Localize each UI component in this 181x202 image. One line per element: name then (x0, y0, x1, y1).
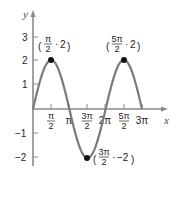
sine-chart: y x 3 2 1 −1 −2 π 2 π 3π 2 2π 5π 2 3 (0, 0, 181, 202)
max-point-1 (48, 57, 54, 63)
svg-text:π: π (45, 34, 51, 44)
annotation-3pi-over-2-minus-2: ( 3π 2 · −2 ) (93, 147, 134, 167)
svg-text:3π: 3π (81, 111, 92, 121)
svg-text:π: π (48, 111, 54, 121)
svg-text:): ) (137, 41, 140, 52)
x-axis-arrow-icon (161, 107, 168, 112)
svg-text:2: 2 (101, 157, 106, 167)
svg-text:2: 2 (60, 39, 66, 50)
x-tick-2pi: 2π (99, 115, 112, 126)
y-tick-3: 3 (22, 32, 28, 43)
svg-text:(: ( (93, 154, 97, 165)
svg-text:2: 2 (84, 121, 89, 131)
svg-text:3π: 3π (98, 147, 109, 157)
svg-text:2: 2 (114, 44, 119, 54)
y-axis-label: y (22, 8, 28, 20)
svg-text:): ) (131, 154, 134, 165)
y-tick-2: 2 (22, 55, 28, 66)
svg-text:2: 2 (121, 121, 126, 131)
y-tick-1: 1 (22, 79, 28, 90)
y-axis-arrow-icon (31, 10, 36, 17)
x-tick-3pi-over-2: 3π 2 (81, 111, 92, 131)
svg-text:2: 2 (48, 121, 53, 131)
x-axis-label: x (163, 114, 169, 126)
svg-text:−2: −2 (117, 152, 129, 163)
svg-text:·: · (112, 152, 115, 163)
svg-text:·: · (125, 39, 128, 50)
svg-text:): ) (67, 41, 70, 52)
x-tick-3pi: 3π (136, 115, 149, 126)
min-point (84, 155, 90, 161)
svg-text:2: 2 (130, 39, 136, 50)
svg-text:(: ( (106, 41, 110, 52)
y-tick-minus-2: −2 (15, 152, 27, 163)
x-tick-pi-over-2: π 2 (47, 111, 55, 131)
svg-text:(: ( (38, 41, 42, 52)
svg-text:5π: 5π (118, 111, 129, 121)
annotation-pi-over-2-2: ( π 2 · 2 ) (38, 34, 70, 54)
annotation-5pi-over-2-2: ( 5π 2 · 2 ) (106, 34, 140, 54)
x-tick-5pi-over-2: 5π 2 (118, 111, 129, 131)
svg-text:5π: 5π (111, 34, 122, 44)
svg-text:2: 2 (45, 44, 50, 54)
y-tick-minus-1: −1 (15, 128, 27, 139)
svg-text:·: · (55, 39, 58, 50)
max-point-2 (121, 57, 127, 63)
